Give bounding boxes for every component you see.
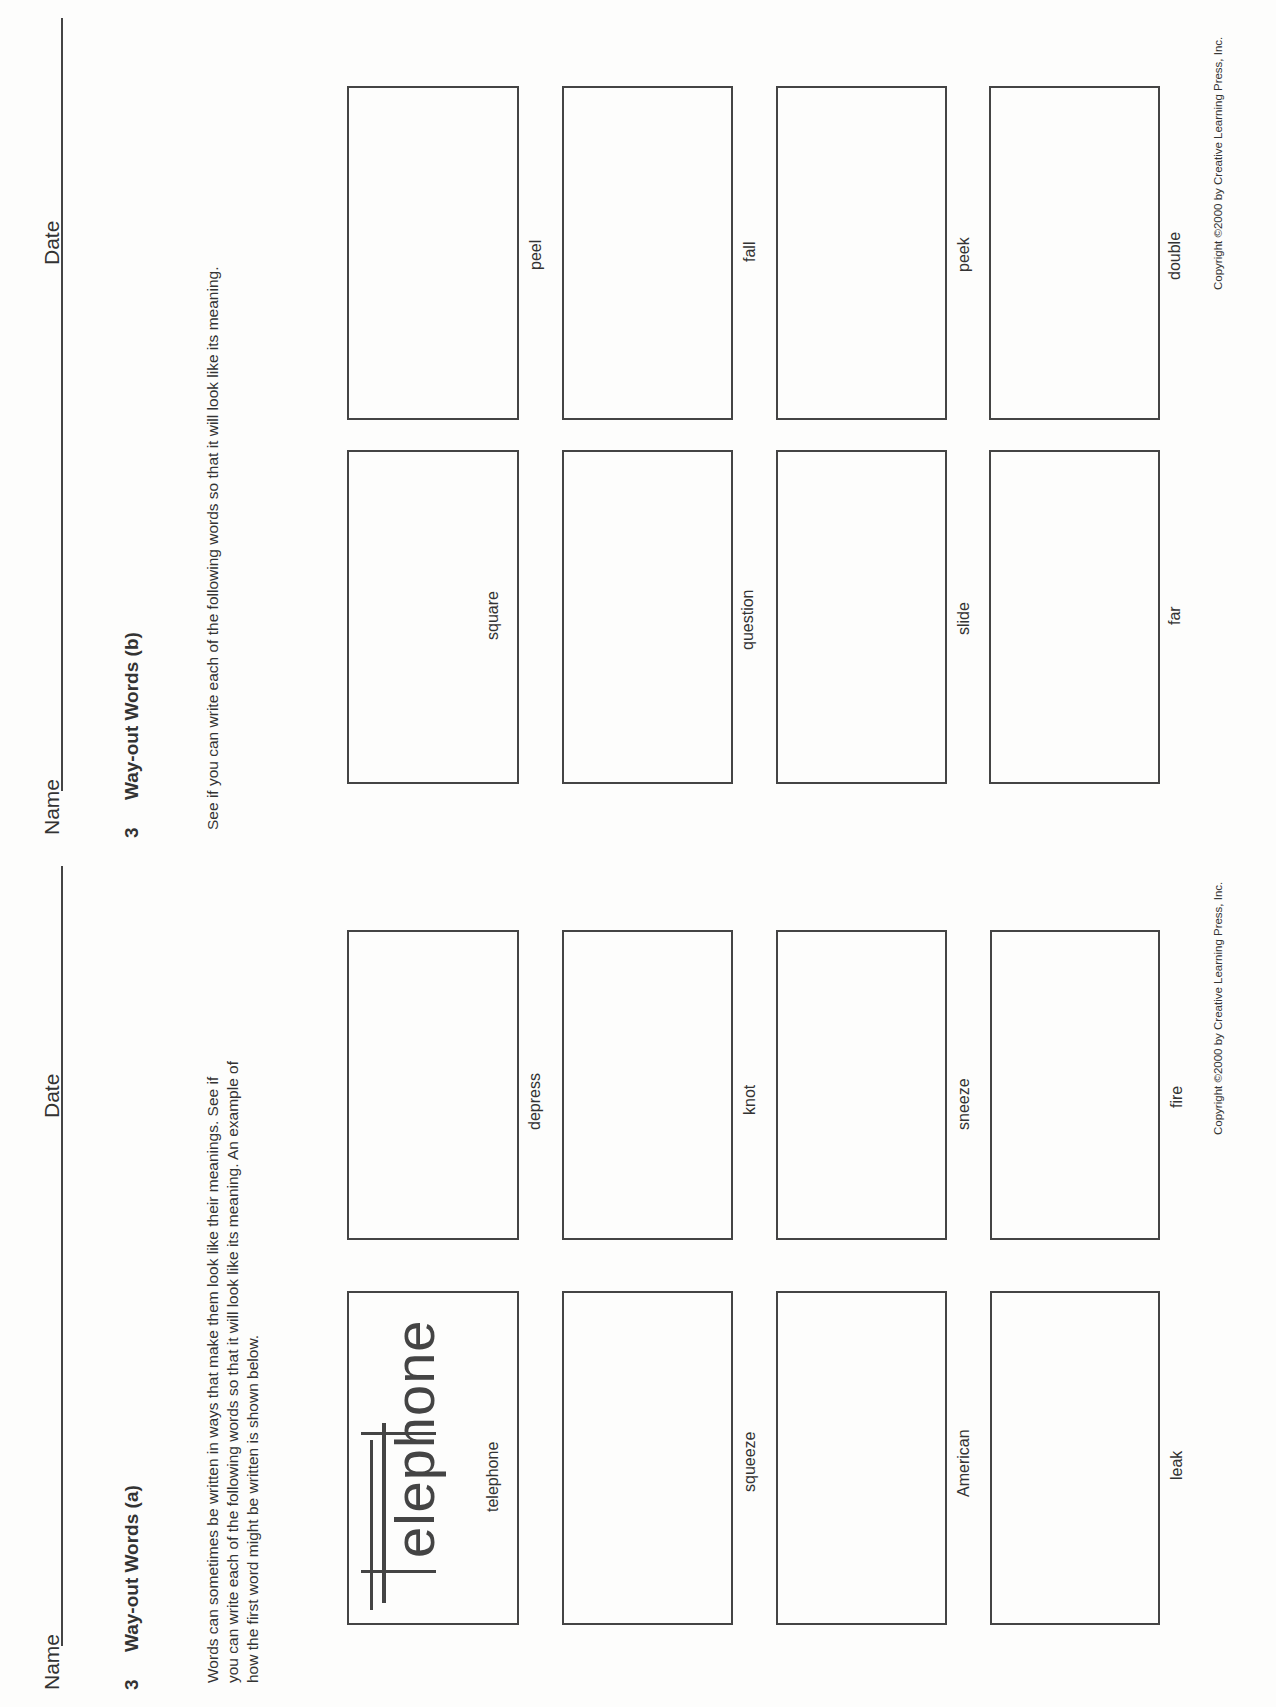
section-number-b: 3: [121, 827, 143, 838]
word-label-fall: fall: [741, 242, 759, 262]
drawing-box-peek[interactable]: [776, 86, 947, 420]
word-label-squeeze: squeeze: [741, 1432, 759, 1493]
instructions-a-line-3: how the first word might be written is s…: [243, 1335, 262, 1683]
drawing-box-knot[interactable]: [562, 930, 733, 1240]
word-label-sneeze: sneeze: [955, 1078, 973, 1130]
drawing-box-fall[interactable]: [562, 86, 733, 420]
name-date-line-b[interactable]: [61, 18, 63, 791]
drawing-box-slide[interactable]: [776, 450, 947, 784]
example-t-crossbar-outer: [370, 1440, 373, 1610]
word-label-knot: knot: [741, 1085, 759, 1115]
example-t-stem-bottom: [361, 1570, 436, 1573]
word-label-double: double: [1166, 232, 1184, 280]
word-label-square: square: [484, 591, 502, 640]
drawing-box-double[interactable]: [989, 86, 1160, 420]
drawing-box-american[interactable]: [776, 1291, 947, 1625]
drawing-box-sneeze[interactable]: [776, 930, 947, 1240]
date-label-a: Date: [40, 1074, 64, 1118]
drawing-box-question[interactable]: [562, 450, 733, 784]
word-label-american: American: [955, 1429, 973, 1497]
word-label-depress: depress: [526, 1073, 544, 1130]
word-label-slide: slide: [955, 602, 973, 635]
drawing-box-leak[interactable]: [990, 1291, 1160, 1625]
word-label-leak: leak: [1168, 1451, 1186, 1480]
drawing-box-far[interactable]: [989, 450, 1160, 784]
copyright-a: Copyright ©2000 by Creative Learning Pre…: [1212, 882, 1224, 1135]
drawing-box-squeeze[interactable]: [562, 1291, 733, 1625]
example-telephone-text: elephone: [382, 1320, 447, 1558]
word-label-peek: peek: [955, 237, 973, 272]
instructions-a-line-1: Words can sometimes be written in ways t…: [203, 1077, 222, 1683]
date-label-b: Date: [40, 221, 64, 265]
drawing-box-depress[interactable]: [347, 930, 519, 1240]
copyright-b: Copyright ©2000 by Creative Learning Pre…: [1212, 37, 1224, 290]
instructions-b: See if you can write each of the followi…: [203, 267, 222, 830]
worksheet-title-b: Way-out Words (b): [121, 632, 143, 800]
name-date-line-a[interactable]: [61, 866, 63, 1646]
word-label-far: far: [1166, 606, 1184, 625]
section-number-a: 3: [121, 1679, 143, 1690]
drawing-box-fire[interactable]: [990, 930, 1160, 1240]
drawing-box-peel[interactable]: [347, 86, 519, 420]
instructions-a-line-2: you can write each of the following word…: [223, 1061, 242, 1683]
word-label-telephone: telephone: [484, 1442, 502, 1512]
word-label-peel: peel: [527, 240, 545, 270]
word-label-question: question: [739, 590, 757, 651]
word-label-fire: fire: [1168, 1086, 1186, 1108]
worksheet-title-a: Way-out Words (a): [121, 1485, 143, 1652]
